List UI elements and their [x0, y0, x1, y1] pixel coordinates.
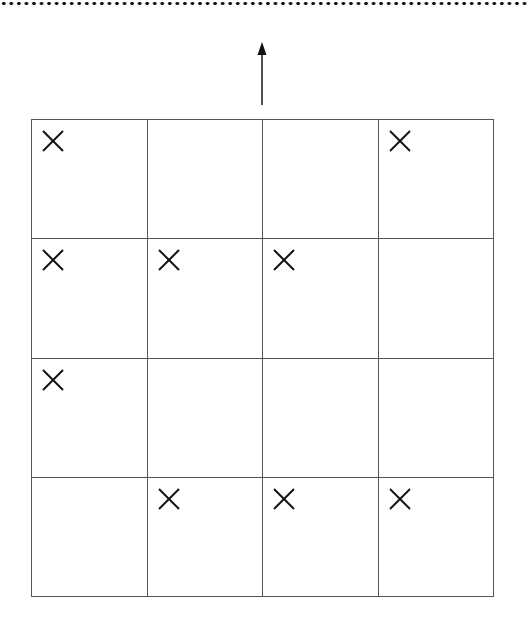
arrow-up-icon [252, 40, 272, 106]
grid-cell-r2-c4 [379, 239, 495, 358]
x-mark-icon [272, 248, 296, 272]
grid-cell-r3-c3 [263, 359, 379, 478]
x-mark-icon [388, 129, 412, 153]
grid-cell-r1-c3 [263, 120, 379, 239]
grid-cell-r4-c4 [379, 478, 495, 597]
grid-cell-r4-c1 [32, 478, 148, 597]
grid-cell-r3-c2 [148, 359, 264, 478]
grid-cell-r1-c2 [148, 120, 264, 239]
x-mark-icon [157, 248, 181, 272]
dotted-border-line [0, 1, 529, 6]
x-mark-icon [41, 129, 65, 153]
x-mark-icon [41, 368, 65, 392]
grid-cell-r2-c1 [32, 239, 148, 358]
grid-cell-r4-c3 [263, 478, 379, 597]
x-mark-icon [157, 487, 181, 511]
grid-cell-r4-c2 [148, 478, 264, 597]
x-mark-icon [41, 248, 65, 272]
grid-cell-r1-c4 [379, 120, 495, 239]
mark-grid [31, 119, 494, 597]
grid-cell-r3-c1 [32, 359, 148, 478]
x-mark-icon [388, 487, 412, 511]
grid-cell-r2-c2 [148, 239, 264, 358]
grid-cell-r2-c3 [263, 239, 379, 358]
x-mark-icon [272, 487, 296, 511]
grid-cell-r3-c4 [379, 359, 495, 478]
grid-cell-r1-c1 [32, 120, 148, 239]
